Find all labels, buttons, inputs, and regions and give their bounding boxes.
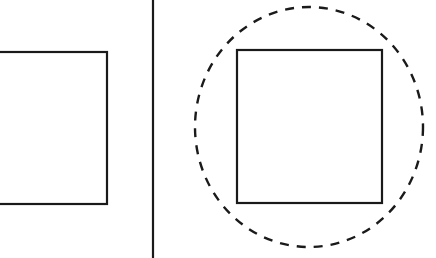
dashed-circle	[195, 7, 423, 247]
right-square	[237, 50, 382, 203]
diagram-canvas	[0, 0, 436, 258]
left-square	[0, 52, 107, 204]
